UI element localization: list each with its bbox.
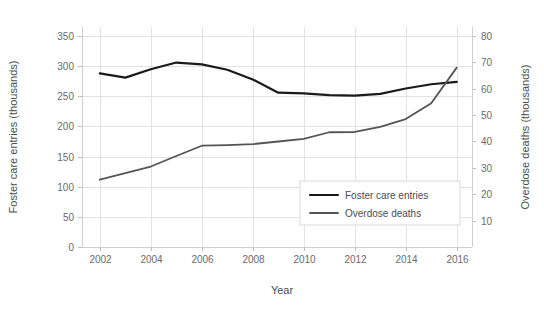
y2-axis-tick-label: 30 bbox=[481, 163, 493, 174]
chart-figure: 050100150200250300350 1020304050607080 2… bbox=[0, 0, 544, 315]
x-axis-tick-label: 2004 bbox=[140, 254, 163, 265]
y2-axis-tick-label: 70 bbox=[481, 57, 493, 68]
y2-axis-tick-label: 60 bbox=[481, 84, 493, 95]
x-axis-tick-label: 2012 bbox=[344, 254, 367, 265]
y-axis-tick-label: 250 bbox=[57, 91, 74, 102]
x-axis-tick-label: 2006 bbox=[191, 254, 214, 265]
y2-axis-tick-label: 80 bbox=[481, 31, 493, 42]
y-axis-tick-label: 50 bbox=[63, 212, 75, 223]
y-axis-tick-label: 300 bbox=[57, 61, 74, 72]
y-axis-tick-label: 0 bbox=[68, 242, 74, 253]
y-axis-tick-label: 150 bbox=[57, 152, 74, 163]
x-axis-tick-label: 2002 bbox=[89, 254, 112, 265]
y2-axis-tick-label: 50 bbox=[481, 110, 493, 121]
x-axis-title: Year bbox=[271, 284, 294, 296]
x-axis-tick-label: 2008 bbox=[242, 254, 265, 265]
y2-axis-tick-label: 10 bbox=[481, 216, 493, 227]
chart-canvas: 050100150200250300350 1020304050607080 2… bbox=[0, 0, 544, 315]
y2-axis-tick-label: 40 bbox=[481, 136, 493, 147]
x-axis-tick-label: 2016 bbox=[446, 254, 469, 265]
legend-label-overdose-deaths: Overdose deaths bbox=[345, 208, 421, 219]
y2-axis-title: Overdose deaths (thousands) bbox=[519, 65, 531, 210]
y-axis-tick-label: 100 bbox=[57, 182, 74, 193]
x-axis-tick-label: 2014 bbox=[395, 254, 418, 265]
y2-axis-tick-label: 20 bbox=[481, 189, 493, 200]
y-axis-tick-label: 200 bbox=[57, 121, 74, 132]
chart-legend: Foster care entriesOverdose deaths bbox=[300, 181, 460, 225]
y-axis-tick-label: 350 bbox=[57, 31, 74, 42]
x-axis-tick-label: 2010 bbox=[293, 254, 316, 265]
y-axis-title: Foster care entries (thousands) bbox=[7, 61, 19, 214]
legend-label-foster-care-entries: Foster care entries bbox=[345, 190, 428, 201]
